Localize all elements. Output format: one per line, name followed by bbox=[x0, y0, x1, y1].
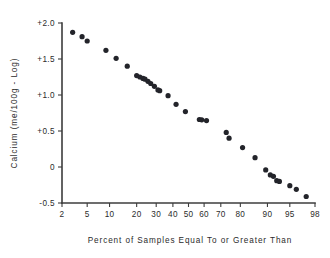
data-point bbox=[199, 117, 204, 122]
x-tick-label: 98 bbox=[310, 210, 320, 219]
data-point bbox=[226, 136, 231, 141]
x-tick-label: 80 bbox=[235, 210, 245, 219]
data-point bbox=[157, 88, 162, 93]
data-point bbox=[294, 187, 299, 192]
x-tick-label: 10 bbox=[105, 210, 115, 219]
y-tick-label: 0 bbox=[50, 163, 55, 172]
y-tick-label: -0.5 bbox=[39, 199, 55, 208]
data-point bbox=[173, 102, 178, 107]
data-point bbox=[103, 48, 108, 53]
calcium-probability-plot: +2.0+1.5+1.0+0.50-0.5 251020304050607080… bbox=[0, 0, 330, 258]
data-point bbox=[79, 34, 84, 39]
data-point bbox=[240, 145, 245, 150]
data-point bbox=[114, 56, 119, 61]
x-tick-label: 5 bbox=[85, 210, 90, 219]
data-point bbox=[224, 130, 229, 135]
data-point bbox=[304, 194, 309, 199]
data-point bbox=[271, 174, 276, 179]
y-axis-title: Calcium (me/100g - Log) bbox=[10, 58, 19, 169]
x-tick-label: 2 bbox=[60, 210, 65, 219]
x-tick-label: 50 bbox=[184, 210, 194, 219]
y-tick-label: +1.0 bbox=[37, 91, 55, 100]
x-tick-label: 60 bbox=[199, 210, 209, 219]
data-point bbox=[183, 109, 188, 114]
y-tick-label: +2.0 bbox=[37, 19, 55, 28]
data-point bbox=[263, 167, 268, 172]
x-tick-label: 40 bbox=[168, 210, 178, 219]
x-tick-label: 90 bbox=[263, 210, 273, 219]
y-tick-label: +0.5 bbox=[37, 127, 55, 136]
data-point bbox=[85, 38, 90, 43]
data-point bbox=[204, 118, 209, 123]
data-point bbox=[125, 64, 130, 69]
data-point bbox=[70, 30, 75, 35]
data-point bbox=[165, 93, 170, 98]
x-tick-label: 95 bbox=[285, 210, 295, 219]
y-tick-label: +1.5 bbox=[37, 55, 55, 64]
x-tick-label: 70 bbox=[216, 210, 226, 219]
data-point bbox=[277, 179, 282, 184]
x-tick-label: 30 bbox=[151, 210, 161, 219]
data-point bbox=[287, 183, 292, 188]
x-tick-label: 20 bbox=[132, 210, 142, 219]
x-axis-title: Percent of Samples Equal To or Greater T… bbox=[88, 236, 293, 245]
data-point bbox=[252, 155, 257, 160]
